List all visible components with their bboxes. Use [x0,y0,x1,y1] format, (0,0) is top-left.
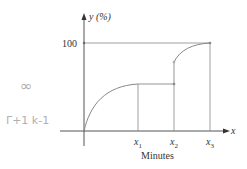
x-tick-x2: x2 [169,136,178,150]
point-x3 [209,42,212,45]
x-axis-arrow-icon [223,129,230,134]
y-axis-label: y (%) [88,11,112,23]
chart: y (%) 100 x x1 x2 x3 Minutes ∞ Γ+1 k-1 [0,0,247,169]
x-tick-x1: x1 [133,136,142,150]
tick-100 [83,42,85,44]
handwritten-infinity: ∞ [20,77,33,95]
x-tick-x3: x3 [205,136,214,150]
point-x2-high [173,61,176,64]
x-axis-title: Minutes [141,150,174,161]
handwritten-note: Γ+1 k-1 [6,114,49,127]
curve-segment-2 [174,43,210,62]
y-tick-100: 100 [62,38,77,49]
point-x2-low [173,83,176,86]
curve-segment-1 [84,84,138,131]
x-axis-symbol: x [230,125,236,136]
y-axis-arrow-icon [82,13,87,20]
